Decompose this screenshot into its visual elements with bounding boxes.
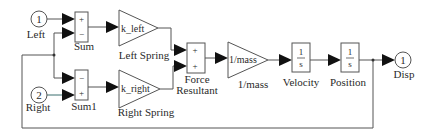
position-integrator-block[interactable]: 1 s Position [330,43,367,88]
force-sign-1: + [192,45,197,55]
outport-disp-label: Disp [394,68,415,80]
position-numerator: 1 [348,47,353,57]
sum1-block[interactable]: − + Sum1 [71,70,97,112]
right-spring-gain-block[interactable]: k_right Right Spring [118,70,175,118]
branch-point [53,54,56,57]
sum-label: Sum [74,40,95,52]
mass-gain-value: 1/mass [229,54,257,65]
force-label-line2: Resultant [176,84,218,96]
inport-right-label: Right [26,101,50,113]
sum1-sign-2: + [79,88,84,98]
velocity-numerator: 1 [299,47,304,57]
left-spring-gain-value: k_left [121,23,145,34]
position-label: Position [330,76,367,88]
right-spring-gain-value: k_right [121,83,150,94]
velocity-denominator: s [299,59,303,69]
inport-right-number: 2 [36,89,42,101]
velocity-label: Velocity [283,76,320,88]
mass-gain-label: 1/mass [238,78,269,90]
force-sign-2: + [192,61,197,71]
outport-disp-number: 1 [400,54,406,66]
sum-sign-1: + [79,14,84,24]
inport-right[interactable]: 2 Right [26,87,50,113]
velocity-integrator-block[interactable]: 1 s Velocity [283,43,320,88]
left-spring-gain-block[interactable]: k_left Left Spring [119,10,170,61]
sum-sign-2: − [79,29,84,39]
mass-gain-block[interactable]: 1/mass 1/mass [228,42,268,90]
sum-block[interactable]: + − Sum [74,12,95,52]
position-denominator: s [348,59,352,69]
inport-left-label: Left [27,28,45,40]
left-spring-label: Left Spring [119,49,170,61]
branch-point [372,59,375,62]
block-diagram-canvas: 1 Left + − Sum k_left Left Spring 2 Righ… [0,0,434,135]
sum1-label: Sum1 [71,100,97,112]
sum1-sign-1: − [79,73,84,83]
inport-left[interactable]: 1 Left [27,11,47,40]
right-spring-label: Right Spring [118,106,175,118]
inport-left-number: 1 [36,13,42,25]
outport-disp[interactable]: 1 Disp [394,52,415,80]
